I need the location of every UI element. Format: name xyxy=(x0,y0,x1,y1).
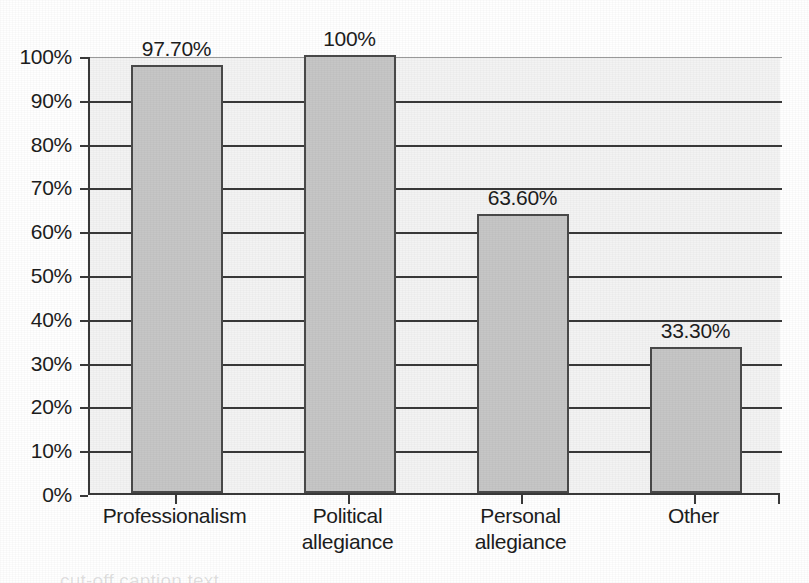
bar-value-label: 63.60% xyxy=(437,187,609,208)
x-axis-category-label-line: Professionalism xyxy=(88,503,261,529)
y-axis-tick-label: 90% xyxy=(6,90,72,111)
bar xyxy=(304,55,396,493)
y-axis-tick-label: 80% xyxy=(6,134,72,155)
y-axis-tick-label: 30% xyxy=(6,353,72,374)
x-axis-category-label-line: allegiance xyxy=(434,529,607,555)
y-axis-tick-label: 50% xyxy=(6,265,72,286)
bar xyxy=(650,347,742,493)
y-axis-tick-mark xyxy=(80,57,88,59)
y-axis-tick-mark xyxy=(80,232,88,234)
y-axis-tick-mark xyxy=(80,364,88,366)
plot-area: 97.70%100%63.60%33.30% xyxy=(88,57,780,495)
y-axis-tick-label: 40% xyxy=(6,309,72,330)
x-axis-category-label: Other xyxy=(607,503,780,529)
y-axis-tick-mark xyxy=(80,276,88,278)
y-axis-tick-mark xyxy=(80,451,88,453)
x-axis-category-label: Professionalism xyxy=(88,503,261,529)
bar-value-label: 100% xyxy=(264,28,436,49)
x-axis-category-label-line: Other xyxy=(607,503,780,529)
x-axis-labels: ProfessionalismPoliticalallegiancePerson… xyxy=(88,503,780,569)
y-axis-tick-mark xyxy=(80,145,88,147)
y-axis-tick-label: 60% xyxy=(6,221,72,242)
y-axis-tick-label: 100% xyxy=(6,46,72,67)
y-axis-tick-label: 10% xyxy=(6,440,72,461)
x-axis-category-label: Politicalallegiance xyxy=(261,503,434,555)
y-axis-tick-mark xyxy=(80,101,88,103)
y-axis: 0%10%20%30%40%50%60%70%80%90%100% xyxy=(0,57,88,495)
bar-value-label: 97.70% xyxy=(91,38,263,59)
y-axis-tick-mark xyxy=(80,495,88,497)
y-axis-tick-mark xyxy=(80,407,88,409)
bar xyxy=(131,65,223,493)
y-axis-tick-label: 70% xyxy=(6,177,72,198)
y-axis-tick-mark xyxy=(80,320,88,322)
y-axis-tick-label: 0% xyxy=(6,484,72,505)
x-axis-category-label-line: allegiance xyxy=(261,529,434,555)
bar-chart-figure: 0%10%20%30%40%50%60%70%80%90%100% 97.70%… xyxy=(0,0,809,583)
y-axis-tick-label: 20% xyxy=(6,396,72,417)
x-axis-category-label-line: Political xyxy=(261,503,434,529)
caption-ghost-text: cut-off caption text xyxy=(60,571,540,583)
x-axis-category-label-line: Personal xyxy=(434,503,607,529)
bar xyxy=(477,214,569,493)
x-axis-category-label: Personalallegiance xyxy=(434,503,607,555)
bar-value-label: 33.30% xyxy=(610,320,782,341)
y-axis-tick-mark xyxy=(80,188,88,190)
